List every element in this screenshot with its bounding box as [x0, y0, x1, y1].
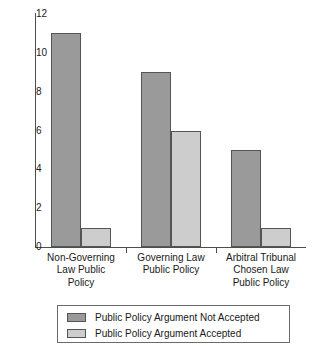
y-axis-tick-label: 8 — [36, 87, 45, 97]
x-axis-spine — [35, 247, 306, 248]
legend-label-not-accepted: Public Policy Argument Not Accepted — [95, 312, 260, 323]
category-label-line: Law Public — [32, 264, 130, 276]
category-label-line: Public Policy — [212, 277, 310, 289]
bar-group — [216, 14, 306, 247]
y-axis-tick-label: 0 — [36, 242, 45, 252]
bar — [141, 72, 171, 247]
bar — [51, 33, 81, 247]
y-axis-tick-label: 10 — [36, 48, 50, 58]
y-axis-tick-label: 4 — [36, 164, 45, 174]
x-axis-category-label: Arbitral TribunalChosen LawPublic Policy — [212, 252, 310, 289]
x-axis-category-label: Non-GoverningLaw PublicPolicy — [32, 252, 130, 289]
legend-item-not-accepted: Public Policy Argument Not Accepted — [67, 310, 260, 324]
bar — [261, 228, 291, 247]
bar — [81, 228, 111, 247]
y-axis-tick-label: 2 — [36, 203, 45, 213]
category-label-line: Policy — [32, 277, 130, 289]
plot-area — [36, 14, 306, 247]
bar-chart: 024681012 Non-GoverningLaw PublicPolicyG… — [0, 0, 314, 354]
legend-swatch-not-accepted — [67, 313, 86, 322]
plot-region: 024681012 Non-GoverningLaw PublicPolicyG… — [0, 0, 314, 300]
category-label-line: Chosen Law — [212, 264, 310, 276]
y-axis-tick-label: 12 — [36, 9, 50, 19]
bar-group — [126, 14, 216, 247]
legend-label-accepted: Public Policy Argument Accepted — [95, 328, 241, 339]
y-axis-tick-label: 6 — [36, 126, 45, 136]
bar — [171, 131, 201, 248]
category-label-line: Governing Law — [122, 252, 220, 264]
category-label-line: Arbitral Tribunal — [212, 252, 310, 264]
legend-item-accepted: Public Policy Argument Accepted — [67, 326, 241, 340]
bar — [231, 150, 261, 247]
legend-swatch-accepted — [67, 329, 86, 338]
chart-legend: Public Policy Argument Not Accepted Publ… — [57, 305, 290, 343]
x-axis-category-label: Governing LawPublic Policy — [122, 252, 220, 277]
category-label-line: Public Policy — [122, 264, 220, 276]
category-label-line: Non-Governing — [32, 252, 130, 264]
